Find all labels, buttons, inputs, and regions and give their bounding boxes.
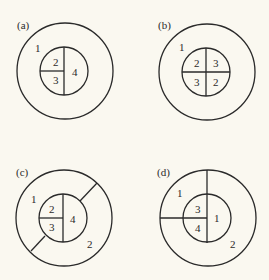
panel-b-region-1: 1 xyxy=(179,41,185,53)
panel-d-region-1a: 1 xyxy=(177,187,183,199)
panel-d-label: (d) xyxy=(157,166,170,179)
map-coloring-diagram: (a) 1 2 3 4 (b) 1 2 3 3 2 (c) 1 2 3 4 2 … xyxy=(0,0,269,280)
panel-d-region-2: 2 xyxy=(230,238,236,250)
panel-a-region-4: 4 xyxy=(72,66,78,78)
panel-c-region-2b: 2 xyxy=(87,238,93,250)
panel-d-region-1b: 1 xyxy=(214,212,220,224)
panel-c-region-3: 3 xyxy=(49,221,55,233)
panel-c-region-4: 4 xyxy=(70,213,76,225)
panel-b-region-2a: 2 xyxy=(194,57,200,69)
panel-c-region-2a: 2 xyxy=(49,203,55,215)
panel-b-region-2b: 2 xyxy=(213,76,219,88)
panel-b-shapes xyxy=(159,24,255,120)
panel-a-label: (a) xyxy=(17,19,30,32)
panel-c-shapes xyxy=(16,170,112,266)
panel-d-region-3: 3 xyxy=(195,203,201,215)
panel-a-region-2: 2 xyxy=(53,56,59,68)
panel-d-region-4: 4 xyxy=(195,222,201,234)
panel-a-region-1: 1 xyxy=(35,42,41,54)
panel-a-region-3: 3 xyxy=(53,74,59,86)
panel-a-shapes xyxy=(17,23,113,119)
panel-b-region-3a: 3 xyxy=(213,57,219,69)
panel-b-region-3b: 3 xyxy=(194,76,200,88)
panel-b-label: (b) xyxy=(158,19,171,32)
panel-c-region-1: 1 xyxy=(31,193,37,205)
panel-c-label: (c) xyxy=(16,166,29,179)
panel-d-shapes xyxy=(160,170,256,266)
